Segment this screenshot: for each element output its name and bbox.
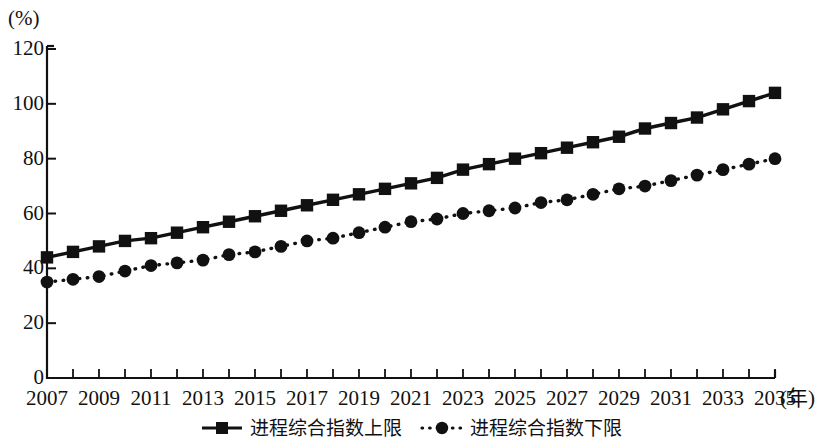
data-point-marker xyxy=(431,213,444,226)
x-axis-tick-label: 2009 xyxy=(78,388,120,409)
data-point-marker xyxy=(561,193,574,206)
data-point-marker xyxy=(743,95,755,107)
data-point-marker xyxy=(769,152,782,165)
data-point-marker xyxy=(457,163,469,175)
axes xyxy=(47,46,775,378)
data-point-marker xyxy=(93,270,106,283)
data-point-marker xyxy=(249,245,262,258)
x-axis-tick-label: 2013 xyxy=(182,388,224,409)
x-axis-tick-label: 2027 xyxy=(546,388,588,409)
data-point-marker xyxy=(67,273,80,286)
data-point-marker xyxy=(353,188,365,200)
data-point-marker xyxy=(665,174,678,187)
data-series xyxy=(41,87,782,289)
x-axis-tick-label: 2023 xyxy=(442,388,484,409)
data-point-marker xyxy=(145,259,158,272)
legend-item-label: 进程综合指数上限 xyxy=(250,419,402,438)
data-point-marker xyxy=(743,158,756,171)
data-point-marker xyxy=(223,248,236,261)
data-point-marker xyxy=(405,177,417,189)
data-point-marker xyxy=(717,103,729,115)
data-point-marker xyxy=(613,182,626,195)
data-point-marker xyxy=(145,232,157,244)
data-point-marker xyxy=(691,111,703,123)
x-axis-tick-label: 2021 xyxy=(390,388,432,409)
data-point-marker xyxy=(769,87,781,99)
legend-circle-marker-icon xyxy=(420,419,464,437)
data-point-marker xyxy=(119,235,131,247)
data-point-marker xyxy=(535,196,548,209)
chart-container: (%) 020406080100120 20072009201120132015… xyxy=(0,0,822,440)
legend-item[interactable]: 进程综合指数下限 xyxy=(420,419,622,438)
data-point-marker xyxy=(587,188,600,201)
data-point-marker xyxy=(379,221,392,234)
x-axis-tick-label: 2029 xyxy=(598,388,640,409)
data-point-marker xyxy=(327,232,340,245)
data-point-marker xyxy=(639,180,652,193)
data-point-marker xyxy=(301,199,313,211)
data-point-marker xyxy=(249,210,261,222)
plot-area xyxy=(0,0,822,440)
data-point-marker xyxy=(41,276,54,289)
data-point-marker xyxy=(405,215,418,228)
data-point-marker xyxy=(301,235,314,248)
data-point-marker xyxy=(171,226,183,238)
data-point-marker xyxy=(665,117,677,129)
data-point-marker xyxy=(509,202,522,215)
x-axis-tick-labels: 2007200920112013201520172019202120232025… xyxy=(0,388,822,416)
x-axis-tick-label: 2025 xyxy=(494,388,536,409)
data-point-marker xyxy=(483,204,496,217)
x-axis-tick-label: 2017 xyxy=(286,388,328,409)
x-axis-tick-label: 2019 xyxy=(338,388,380,409)
data-point-marker xyxy=(561,142,573,154)
data-point-marker xyxy=(483,158,495,170)
data-point-marker xyxy=(431,172,443,184)
data-point-marker xyxy=(535,147,547,159)
data-point-marker xyxy=(223,216,235,228)
data-point-marker xyxy=(41,251,53,263)
x-axis-tick-label: 2033 xyxy=(702,388,744,409)
legend-square-marker-icon xyxy=(200,419,244,437)
legend-item[interactable]: 进程综合指数上限 xyxy=(200,419,402,438)
data-point-marker xyxy=(639,122,651,134)
data-point-marker xyxy=(353,226,366,239)
x-axis-tick-label: 2015 xyxy=(234,388,276,409)
data-point-marker xyxy=(509,152,521,164)
data-point-marker xyxy=(275,240,288,253)
data-point-marker xyxy=(717,163,730,176)
x-axis-tick-label: 2011 xyxy=(130,388,171,409)
x-axis-unit-label: (年) xyxy=(780,388,815,409)
legend-item-label: 进程综合指数下限 xyxy=(470,419,622,438)
data-point-marker xyxy=(67,246,79,258)
data-point-marker xyxy=(197,254,210,267)
data-point-marker xyxy=(587,136,599,148)
x-axis-tick-label: 2007 xyxy=(26,388,68,409)
chart-legend: 进程综合指数上限进程综合指数下限 xyxy=(0,416,822,440)
data-point-marker xyxy=(197,221,209,233)
data-point-marker xyxy=(613,131,625,143)
data-point-marker xyxy=(457,207,470,220)
data-point-marker xyxy=(327,194,339,206)
data-point-marker xyxy=(119,265,132,278)
data-point-marker xyxy=(171,256,184,269)
data-point-marker xyxy=(275,205,287,217)
data-point-marker xyxy=(93,240,105,252)
data-point-marker xyxy=(379,183,391,195)
data-point-marker xyxy=(691,169,704,182)
x-axis-tick-label: 2031 xyxy=(650,388,692,409)
